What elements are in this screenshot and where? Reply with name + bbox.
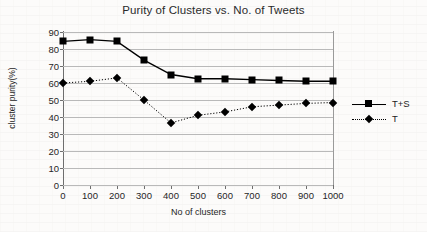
x-tick-mark — [90, 186, 91, 189]
x-tick-mark — [333, 186, 334, 189]
plot-area — [63, 32, 333, 185]
data-point — [60, 38, 67, 45]
x-tick-label: 600 — [217, 190, 233, 201]
y-tick-label: 40 — [39, 112, 59, 123]
data-point — [303, 78, 310, 85]
data-point — [249, 76, 256, 83]
x-tick-mark — [117, 186, 118, 189]
plot-right-border — [333, 31, 334, 186]
legend: T+ST — [352, 97, 424, 127]
y-tick-label: 60 — [39, 78, 59, 89]
y-tick-label: 70 — [39, 61, 59, 72]
x-tick-mark — [171, 186, 172, 189]
data-point — [222, 75, 229, 82]
y-axis-tick-labels: 0102030405060708090 — [38, 32, 59, 185]
data-point — [330, 78, 337, 85]
data-point — [195, 75, 202, 82]
x-tick-mark — [63, 186, 64, 189]
y-tick-label: 20 — [39, 146, 59, 157]
legend-label: T — [392, 113, 398, 124]
legend-marker-icon — [365, 115, 373, 123]
data-point — [168, 71, 175, 78]
legend-item-T[interactable]: T — [352, 112, 424, 127]
chart-figure: Purity of Clusters vs. No. of Tweets 010… — [0, 0, 427, 232]
x-tick-label: 800 — [271, 190, 287, 201]
chart-title: Purity of Clusters vs. No. of Tweets — [0, 4, 427, 16]
data-point — [141, 57, 148, 64]
y-tick-label: 90 — [39, 27, 59, 38]
x-tick-label: 200 — [109, 190, 125, 201]
data-point — [276, 77, 283, 84]
x-tick-label: 100 — [82, 190, 98, 201]
x-tick-label: 300 — [136, 190, 152, 201]
x-tick-mark — [279, 186, 280, 189]
gridline — [63, 185, 333, 186]
x-tick-label: 0 — [60, 190, 65, 201]
x-axis-title: No of clusters — [63, 207, 334, 217]
x-tick-label: 1000 — [322, 190, 343, 201]
legend-item-TplusS[interactable]: T+S — [352, 97, 424, 112]
legend-label: T+S — [392, 98, 410, 109]
series-lines — [63, 32, 333, 185]
y-axis-title: cluster purity(%) — [7, 50, 17, 146]
x-tick-mark — [144, 186, 145, 189]
x-tick-mark — [225, 186, 226, 189]
y-tick-label: 30 — [39, 129, 59, 140]
x-tick-label: 500 — [190, 190, 206, 201]
x-tick-mark — [252, 186, 253, 189]
y-tick-label: 10 — [39, 163, 59, 174]
legend-marker-icon — [365, 100, 372, 107]
y-tick-label: 80 — [39, 44, 59, 55]
x-tick-label: 700 — [244, 190, 260, 201]
x-tick-label: 400 — [163, 190, 179, 201]
x-tick-label: 900 — [298, 190, 314, 201]
x-tick-mark — [198, 186, 199, 189]
data-point — [87, 36, 94, 43]
data-point — [114, 38, 121, 45]
y-tick-label: 50 — [39, 95, 59, 106]
x-tick-mark — [306, 186, 307, 189]
y-tick-label: 0 — [39, 180, 59, 191]
